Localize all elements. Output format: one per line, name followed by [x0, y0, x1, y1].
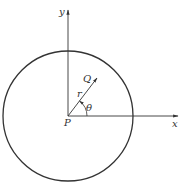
angle-label: θ — [86, 102, 92, 113]
y-axis-label: y — [58, 6, 65, 17]
polar-diagram: y x P Q r θ — [0, 0, 187, 194]
x-axis-label: x — [172, 118, 178, 129]
point-q-label: Q — [83, 73, 91, 84]
origin-label: P — [63, 117, 71, 128]
